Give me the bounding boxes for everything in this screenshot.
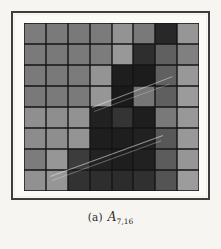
matrix-cell — [112, 86, 134, 107]
matrix-cell — [155, 86, 177, 107]
matrix-cell — [90, 86, 112, 107]
matrix-cell — [90, 128, 112, 149]
matrix-cell — [133, 86, 155, 107]
matrix-cell — [112, 149, 134, 170]
matrix-cell — [68, 44, 90, 65]
matrix-cell — [112, 170, 134, 191]
matrix-cell — [90, 170, 112, 191]
matrix-cell — [155, 149, 177, 170]
caption-matrix-subscript: 7,16 — [117, 217, 134, 226]
matrix-cell — [90, 65, 112, 86]
matrix-cell — [46, 128, 68, 149]
matrix-cell — [155, 23, 177, 44]
matrix-cell — [177, 170, 199, 191]
matrix-cell — [155, 44, 177, 65]
matrix-cell — [24, 107, 46, 128]
matrix-cell — [24, 149, 46, 170]
matrix-cell — [24, 86, 46, 107]
matrix-cell — [90, 107, 112, 128]
matrix-grid — [24, 23, 199, 191]
matrix-cell — [46, 65, 68, 86]
caption-index-label: (a) — [88, 211, 103, 223]
matrix-cell — [155, 128, 177, 149]
matrix-cell — [68, 65, 90, 86]
matrix-cell — [133, 23, 155, 44]
matrix-cell — [112, 44, 134, 65]
matrix-cell — [177, 149, 199, 170]
matrix-cell — [24, 128, 46, 149]
matrix-heatmap — [24, 23, 199, 191]
matrix-cell — [112, 23, 134, 44]
matrix-cell — [90, 23, 112, 44]
matrix-cell — [24, 44, 46, 65]
figure-frame — [11, 11, 210, 200]
matrix-cell — [112, 128, 134, 149]
matrix-cell — [133, 128, 155, 149]
caption-matrix-symbol: A — [108, 210, 117, 224]
matrix-cell — [24, 170, 46, 191]
matrix-cell — [24, 23, 46, 44]
matrix-cell — [68, 128, 90, 149]
figure-root: (a)A7,16 — [0, 0, 221, 249]
matrix-cell — [112, 65, 134, 86]
matrix-cell — [68, 170, 90, 191]
matrix-cell — [90, 44, 112, 65]
matrix-cell — [177, 44, 199, 65]
matrix-cell — [133, 149, 155, 170]
matrix-cell — [68, 86, 90, 107]
matrix-cell — [112, 107, 134, 128]
figure-caption: (a)A7,16 — [0, 210, 221, 226]
matrix-cell — [46, 170, 68, 191]
matrix-cell — [68, 107, 90, 128]
matrix-cell — [46, 149, 68, 170]
matrix-cell — [90, 149, 112, 170]
matrix-cell — [133, 44, 155, 65]
matrix-cell — [133, 107, 155, 128]
matrix-cell — [155, 65, 177, 86]
matrix-cell — [177, 23, 199, 44]
matrix-cell — [46, 44, 68, 65]
matrix-cell — [133, 65, 155, 86]
matrix-cell — [46, 107, 68, 128]
matrix-cell — [68, 149, 90, 170]
matrix-cell — [133, 170, 155, 191]
matrix-cell — [177, 128, 199, 149]
matrix-cell — [68, 23, 90, 44]
matrix-cell — [155, 170, 177, 191]
matrix-cell — [177, 107, 199, 128]
matrix-cell — [24, 65, 46, 86]
matrix-cell — [155, 107, 177, 128]
matrix-cell — [177, 86, 199, 107]
matrix-cell — [46, 23, 68, 44]
matrix-cell — [46, 86, 68, 107]
matrix-cell — [177, 65, 199, 86]
